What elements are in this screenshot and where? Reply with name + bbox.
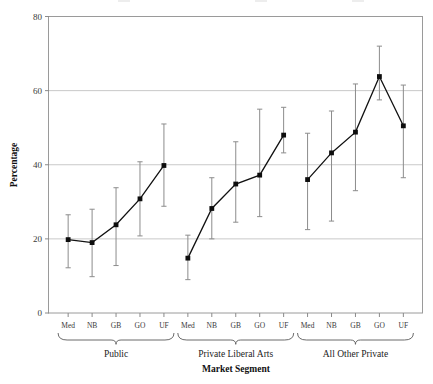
x-tick-label: NB (87, 321, 97, 330)
group-brace (58, 333, 174, 344)
y-tick-label: 0 (38, 308, 43, 318)
market-segment-percentage-chart: 020406080 MedNBGBGOUFMedNBGBGOUFMedNBGBG… (0, 0, 433, 384)
x-tick-label: GB (231, 321, 241, 330)
top-crop-artifacts (118, 0, 364, 2)
group-label: All Other Private (323, 349, 388, 359)
data-point-marker (281, 133, 286, 138)
data-point-marker (90, 240, 95, 245)
x-tick-label: NB (326, 321, 336, 330)
group-labels: PublicPrivate Liberal ArtsAll Other Priv… (104, 349, 388, 359)
x-tick-label: GO (374, 321, 385, 330)
data-point-marker (377, 74, 382, 79)
data-point-marker (353, 130, 358, 135)
data-point-marker (114, 222, 119, 227)
y-tick-label: 20 (33, 234, 43, 244)
x-axis-ticks: MedNBGBGOUFMedNBGBGOUFMedNBGBGOUF (61, 313, 408, 330)
y-tick-label: 40 (33, 160, 43, 170)
data-point-marker (401, 123, 406, 128)
data-point-marker (233, 182, 238, 187)
data-point-marker (209, 206, 214, 211)
x-tick-label: GB (350, 321, 360, 330)
data-series (66, 46, 406, 279)
group-brace (298, 333, 414, 344)
data-point-marker (329, 150, 334, 155)
data-point-marker (138, 196, 143, 201)
x-tick-label: Med (301, 321, 315, 330)
chart-container: 020406080 MedNBGBGOUFMedNBGBGOUFMedNBGBG… (0, 0, 433, 384)
group-label: Private Liberal Arts (198, 349, 273, 359)
y-axis-title: Percentage (9, 143, 19, 188)
data-point-marker (305, 177, 310, 182)
x-tick-label: UF (279, 321, 289, 330)
group-label: Public (104, 349, 128, 359)
x-tick-label: UF (399, 321, 409, 330)
group-braces (58, 333, 413, 344)
x-tick-label: Med (61, 321, 75, 330)
data-point-marker (185, 256, 190, 261)
data-point-marker (162, 163, 167, 168)
data-point-marker (66, 237, 71, 242)
y-tick-label: 80 (33, 12, 43, 22)
x-tick-label: NB (207, 321, 217, 330)
x-tick-label: Med (181, 321, 195, 330)
x-tick-label: UF (159, 321, 169, 330)
x-tick-label: GB (111, 321, 121, 330)
data-point-marker (257, 173, 262, 178)
group-brace (178, 333, 294, 344)
x-axis-title: Market Segment (202, 364, 271, 374)
y-axis-ticks: 020406080 (33, 12, 49, 319)
x-tick-label: GO (254, 321, 265, 330)
x-tick-label: GO (135, 321, 146, 330)
y-tick-label: 60 (33, 86, 43, 96)
